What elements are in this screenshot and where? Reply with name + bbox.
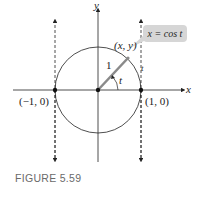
- point-on-circle-label: (x, y): [114, 40, 137, 51]
- angle-label: t: [119, 75, 122, 86]
- figure-caption: FIGURE 5.59: [15, 172, 81, 184]
- point-right: [139, 88, 143, 92]
- point-left-label: (−1, 0): [19, 96, 49, 107]
- callout-x-equals-cos-t: x = cos t: [143, 25, 187, 42]
- x-axis-label: x: [186, 84, 191, 95]
- radius-line: [98, 58, 128, 90]
- radius-label: 1: [106, 60, 112, 71]
- point-right-label: (1, 0): [145, 96, 169, 107]
- point-origin: [96, 88, 100, 92]
- angle-arc: [113, 77, 118, 90]
- y-axis-label: y: [94, 0, 99, 11]
- point-left: [53, 88, 57, 92]
- point-on-circle: [126, 56, 129, 59]
- dashed-line-t-label: t: [141, 64, 144, 73]
